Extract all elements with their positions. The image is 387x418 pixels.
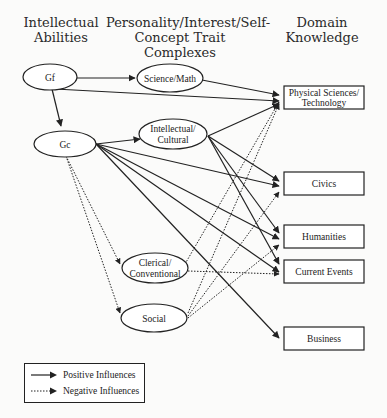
label-cultural: Cultural <box>157 135 188 145</box>
edge-gc-business <box>96 144 279 338</box>
solid-arrow-icon <box>31 370 57 380</box>
edge-gc-intcult <box>96 139 140 144</box>
legend-positive-label: Positive Influences <box>63 370 136 380</box>
legend-negative: Negative Influences <box>31 384 139 398</box>
label-conventional: Conventional <box>129 269 181 279</box>
label-gc: Gc <box>59 140 70 150</box>
label-humanities: Humanities <box>302 232 346 242</box>
label-civics: Civics <box>312 179 337 189</box>
path-diagram: Gf Gc Science/Math Intellectual/ Cultura… <box>0 0 387 418</box>
label-social: Social <box>142 314 166 324</box>
label-clerical: Clerical/ <box>139 258 172 268</box>
edge-social-civics <box>188 192 279 316</box>
edge-gf-gc <box>52 89 61 126</box>
edge-gc-civics <box>96 144 279 186</box>
legend: Positive Influences Negative Influences <box>24 363 145 403</box>
edge-intcult-currentevents <box>208 136 279 264</box>
label-current-events: Current Events <box>295 267 353 277</box>
label-gf: Gf <box>45 73 56 83</box>
label-business: Business <box>307 334 341 344</box>
edge-intcult-civics <box>208 136 279 181</box>
legend-negative-label: Negative Influences <box>63 386 139 396</box>
label-intellectual: Intellectual/ <box>150 124 196 134</box>
label-science-math: Science/Math <box>144 74 196 84</box>
label-physical-sciences: Physical Sciences/ <box>289 88 360 98</box>
edge-intcult-humanities <box>208 136 279 233</box>
edge-clerical-currentevents <box>188 271 279 274</box>
edge-gc-clerical <box>66 156 120 264</box>
edge-gc-humanities <box>96 144 279 239</box>
positive-edges <box>52 78 279 338</box>
label-technology: Technology <box>302 98 347 108</box>
edge-sciencemath-physsci <box>202 80 279 95</box>
legend-positive: Positive Influences <box>31 368 136 382</box>
edge-gc-social <box>66 156 120 313</box>
dotted-arrow-icon <box>31 386 57 396</box>
